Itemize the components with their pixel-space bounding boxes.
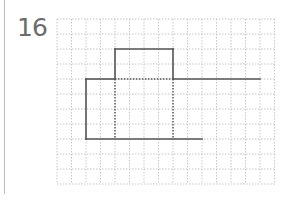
grid-figure (0, 0, 295, 202)
dotted-grid (57, 19, 275, 184)
